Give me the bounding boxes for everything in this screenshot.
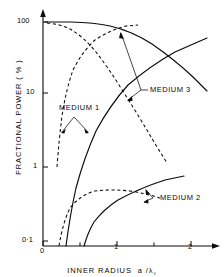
y-tick-label-100: 100 bbox=[17, 17, 30, 25]
y-axis-title: FRACTIONAL POWER ( % ) bbox=[15, 59, 23, 174]
medium2-arrowhead-down bbox=[144, 199, 149, 204]
curve-medium1-falling-dashed bbox=[47, 23, 167, 163]
x-axis-title-subscript: ₀ bbox=[154, 270, 157, 276]
y-axis-title-wrapper: FRACTIONAL POWER ( % ) bbox=[7, 57, 25, 177]
axis-lines bbox=[40, 9, 220, 249]
x-tick-label-1: 1 bbox=[114, 243, 118, 251]
medium1-leader-right bbox=[74, 117, 88, 132]
y-tick-label-0.1: 0·1 bbox=[22, 236, 33, 244]
annotation-medium-3: MEDIUM 3 bbox=[150, 86, 191, 94]
curve-medium3-rising-solid bbox=[66, 38, 207, 246]
y-axis-arrow bbox=[40, 9, 46, 17]
medium3-arrowhead-down bbox=[127, 96, 133, 101]
x-axis-title-wrapper: INNER RADIUS a /λ₀ bbox=[0, 259, 224, 277]
y-tick-marks bbox=[43, 22, 48, 241]
y-tick-label-1: 1 bbox=[33, 162, 37, 170]
medium3-leader-up bbox=[121, 33, 141, 90]
annotation-medium-1: MEDIUM 1 bbox=[59, 104, 100, 112]
medium1-arrowhead-left bbox=[61, 129, 66, 134]
medium1-arrowhead-right bbox=[84, 129, 89, 134]
medium2-arrowhead-up bbox=[146, 189, 151, 195]
x-tick-label-0: 0 bbox=[40, 247, 44, 255]
y-tick-label-10: 10 bbox=[26, 88, 34, 96]
annotation-medium-2: MEDIUM 2 bbox=[160, 194, 201, 202]
x-axis-arrow bbox=[212, 243, 220, 249]
annotation-leaders bbox=[62, 33, 153, 202]
medium3-arrowhead-up bbox=[119, 32, 124, 39]
x-tick-label-2: 2 bbox=[188, 243, 192, 251]
medium1-leader-left bbox=[62, 117, 74, 132]
curve-medium2-rising-solid bbox=[84, 176, 184, 246]
x-axis-title-main: INNER RADIUS bbox=[67, 267, 132, 275]
x-axis-title-symbol: a /λ bbox=[138, 267, 154, 275]
